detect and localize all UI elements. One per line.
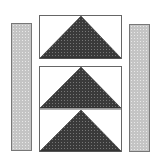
goose-triangle-bottom (40, 110, 121, 151)
goose-triangle-top (40, 16, 121, 58)
goose-triangle-middle (40, 67, 121, 108)
triangles-layer (0, 0, 150, 163)
